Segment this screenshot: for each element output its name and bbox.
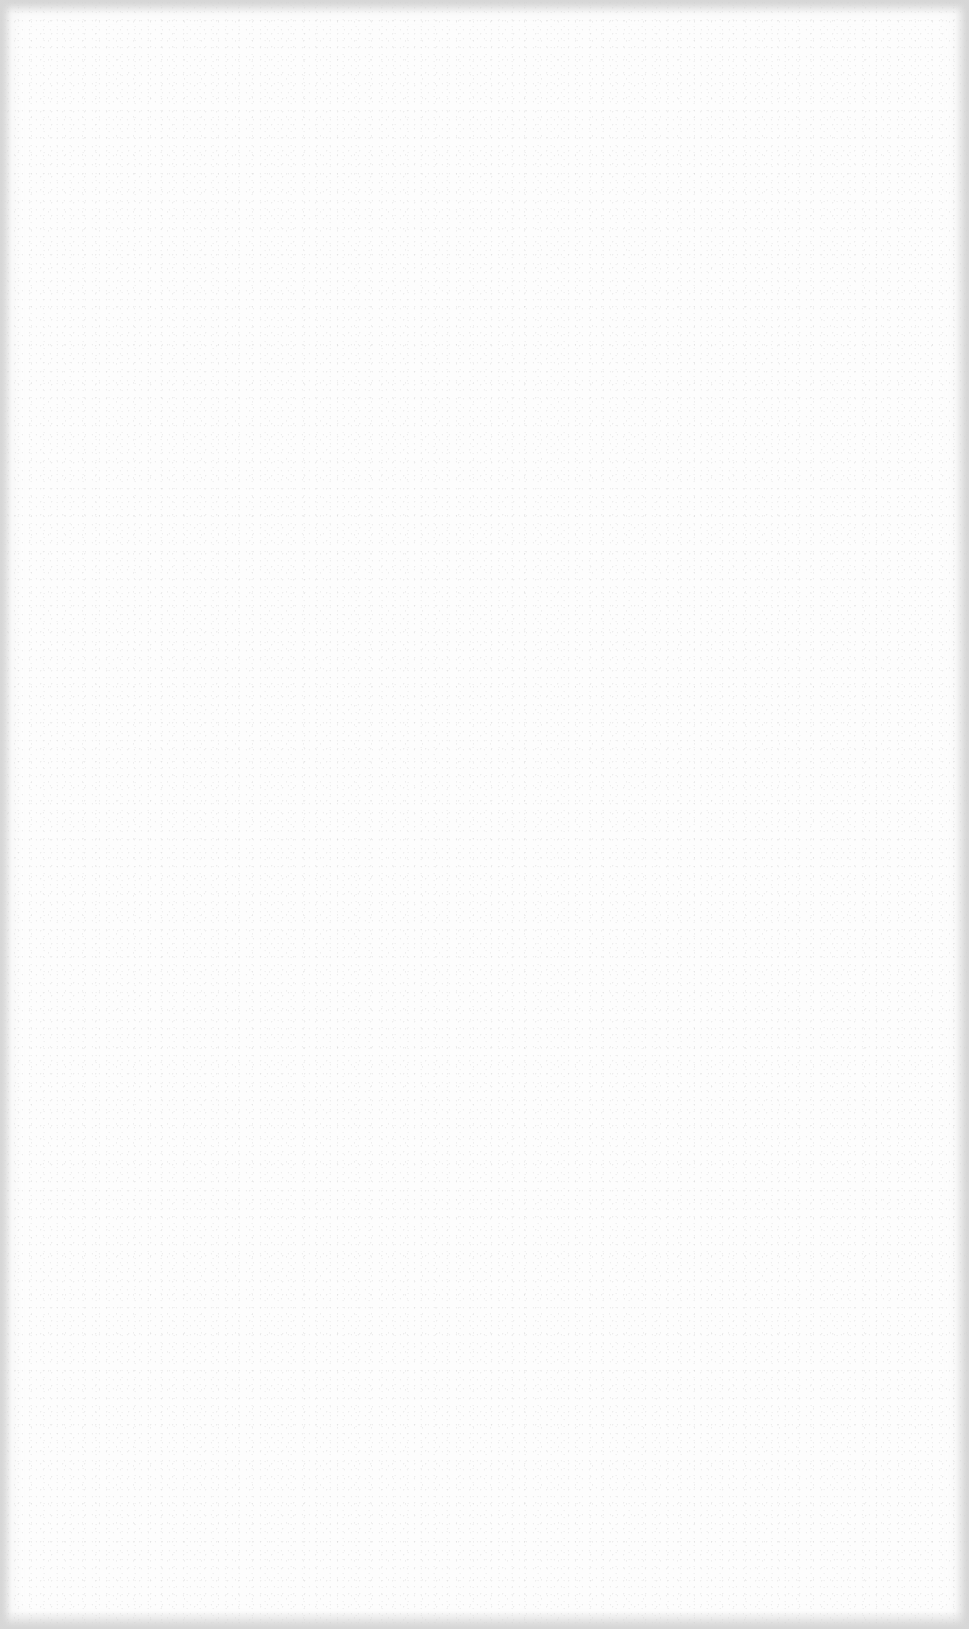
page-content [40,40,929,1589]
page-edge-top-shadow [0,0,969,14]
page-edge-left-shadow [0,0,12,1629]
blank-paper-page [0,0,969,1629]
page-edge-right-shadow [955,0,969,1629]
page-edge-bottom-shadow [0,1611,969,1629]
